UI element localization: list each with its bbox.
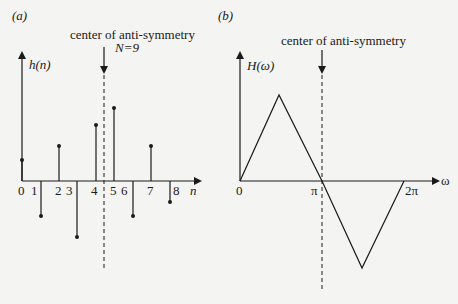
- tick-2pi: 2π: [405, 183, 419, 198]
- tick-4: 4: [91, 183, 98, 198]
- y-axis-label-a: h(n): [29, 57, 51, 72]
- tick-pi: π: [311, 183, 318, 198]
- anti-symmetry-annotation-b: center of anti-symmetry: [281, 33, 406, 48]
- x-axis-label-b: ω: [441, 173, 450, 188]
- panel-a: (a) center of anti-symmetry N=9 h(n) n: [12, 8, 200, 268]
- panel-b: (b) center of anti-symmetry H(ω) ω 0 π 2…: [218, 8, 450, 290]
- length-label: N=9: [114, 40, 139, 55]
- tick-6: 6: [121, 183, 128, 198]
- tick-1: 1: [31, 183, 38, 198]
- panel-b-label: (b): [218, 8, 233, 23]
- tick-2: 2: [55, 183, 62, 198]
- tick-0: 0: [18, 183, 25, 198]
- tick-8: 8: [173, 183, 180, 198]
- tick-0-b: 0: [236, 183, 243, 198]
- tick-3: 3: [66, 183, 73, 198]
- tick-7: 7: [147, 183, 154, 198]
- stems: [22, 108, 170, 237]
- figure: (a) center of anti-symmetry N=9 h(n) n: [0, 0, 458, 304]
- x-axis-label-a: n: [190, 183, 197, 198]
- y-axis-label-b: H(ω): [246, 58, 274, 73]
- panel-a-label: (a): [12, 8, 27, 23]
- tick-5: 5: [110, 183, 117, 198]
